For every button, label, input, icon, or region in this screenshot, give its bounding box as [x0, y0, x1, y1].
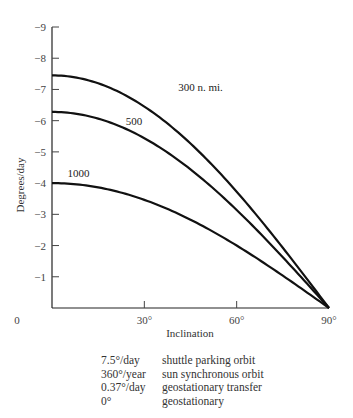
y-ticks: −1−2−3−4−5−6−7−8−9	[34, 21, 59, 283]
y-tick-label: −2	[34, 240, 46, 252]
legend-row: 0.37°/day geostationary transfer	[101, 381, 264, 395]
curves	[52, 75, 329, 308]
series-line	[52, 183, 329, 308]
y-axis-title: Degrees/day	[14, 157, 26, 212]
legend-description: geostationary transfer	[162, 381, 262, 395]
legend-value: 360°/year	[101, 368, 162, 382]
legend-row: 0° geostationary	[101, 395, 264, 409]
series-label: 1000	[67, 167, 90, 179]
legend-description: shuttle parking orbit	[162, 354, 255, 368]
y-tick-label: −4	[34, 177, 46, 189]
series-label: 500	[126, 115, 143, 127]
x-axis-title: Inclination	[166, 327, 214, 339]
y-tick-label: −6	[34, 115, 46, 127]
y-tick-label: −9	[34, 21, 46, 33]
y-tick-label: −5	[34, 146, 46, 158]
legend-value: 7.5°/day	[101, 354, 162, 368]
curve-labels: 300 n. mi.5001000	[67, 81, 223, 179]
legend-row: 360°/year sun synchronous orbit	[101, 368, 264, 382]
x-tick-label: 90°	[321, 314, 336, 326]
y-tick-label: −7	[34, 83, 46, 95]
series-label: 300 n. mi.	[178, 81, 223, 93]
orbit-legend-table: 7.5°/day shuttle parking orbit 360°/year…	[101, 354, 264, 408]
x-tick-label: 0	[14, 314, 20, 326]
legend-value: 0.37°/day	[101, 381, 162, 395]
y-tick-label: −3	[34, 208, 46, 220]
axes	[52, 27, 329, 308]
y-tick-label: −1	[34, 271, 46, 283]
legend-description: sun synchronous orbit	[162, 368, 264, 382]
series-line	[52, 75, 329, 308]
x-tick-label: 30°	[137, 314, 152, 326]
x-tick-label: 60°	[229, 314, 244, 326]
legend-description: geostationary	[162, 395, 224, 409]
x-ticks: 030°60°90°	[14, 301, 336, 326]
legend-row: 7.5°/day shuttle parking orbit	[101, 354, 264, 368]
y-tick-label: −8	[34, 52, 46, 64]
legend-value: 0°	[101, 395, 162, 409]
